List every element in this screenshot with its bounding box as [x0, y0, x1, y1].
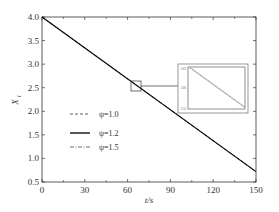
- svg-text:1.5: 1.5: [28, 130, 40, 140]
- svg-text:2.55: 2.55: [181, 107, 187, 111]
- chart: 0.51.01.52.02.53.03.54.0 0306090120150 2…: [0, 0, 279, 212]
- svg-text:0: 0: [40, 185, 45, 195]
- legend: ψ=1.0 ψ=1.2 ψ=1.5: [70, 110, 119, 152]
- legend-label: ψ=1.5: [99, 143, 119, 152]
- svg-text:60: 60: [123, 185, 133, 195]
- svg-text:2.5: 2.5: [28, 83, 40, 93]
- inset-plot: 2.65 2.60 2.55: [178, 64, 248, 113]
- legend-label: ψ=1.0: [99, 110, 119, 119]
- svg-text:2.60: 2.60: [181, 86, 187, 90]
- svg-text:4.0: 4.0: [28, 12, 40, 22]
- svg-text:150: 150: [249, 185, 263, 195]
- x-axis-label: t/s: [145, 195, 154, 205]
- svg-text:X: X: [10, 99, 20, 106]
- svg-text:90: 90: [166, 185, 176, 195]
- legend-label: ψ=1.2: [99, 129, 119, 138]
- svg-text:3.5: 3.5: [28, 36, 40, 46]
- svg-text:0.5: 0.5: [28, 177, 40, 187]
- y-axis-label: X t: [10, 95, 22, 106]
- svg-text:t: t: [16, 95, 22, 97]
- svg-text:120: 120: [206, 185, 220, 195]
- svg-text:30: 30: [80, 185, 90, 195]
- svg-text:2.65: 2.65: [181, 67, 187, 71]
- svg-text:1.0: 1.0: [28, 153, 40, 163]
- svg-text:2.0: 2.0: [28, 106, 40, 116]
- svg-text:3.0: 3.0: [28, 59, 40, 69]
